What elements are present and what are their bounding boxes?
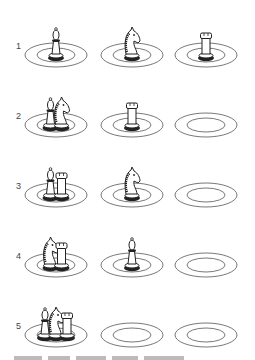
plate-1 — [22, 288, 90, 354]
plate-3 — [172, 218, 240, 284]
step-label: 3 — [16, 181, 21, 191]
plate-3 — [172, 78, 240, 144]
rook-piece — [54, 173, 70, 201]
step-label: 5 — [16, 321, 21, 331]
plate-1 — [22, 8, 90, 74]
plate-2 — [98, 218, 166, 284]
plate-3 — [172, 8, 240, 74]
plate-1 — [22, 218, 90, 284]
rook-piece — [198, 33, 214, 61]
bishop-piece — [124, 238, 140, 272]
bishop-piece — [48, 28, 64, 62]
step-label: 2 — [16, 111, 21, 121]
step-row-2: 2 — [0, 78, 255, 148]
knight-piece — [124, 167, 140, 201]
cut-off-caption — [14, 353, 244, 360]
rook-piece — [54, 243, 70, 271]
plate-3 — [172, 148, 240, 214]
plate-1 — [22, 78, 90, 144]
rook-piece — [59, 313, 75, 341]
step-row-3: 3 — [0, 148, 255, 218]
rook-piece — [124, 103, 140, 131]
plate-1 — [22, 148, 90, 214]
plate-2 — [98, 288, 166, 354]
knight-piece — [124, 27, 140, 61]
step-label: 1 — [16, 41, 21, 51]
step-label: 4 — [16, 251, 21, 261]
step-row-1: 1 — [0, 8, 255, 78]
plate-2 — [98, 8, 166, 74]
step-row-4: 4 — [0, 218, 255, 288]
step-row-5: 5 — [0, 288, 255, 358]
plate-3 — [172, 288, 240, 354]
plate-2 — [98, 78, 166, 144]
plate-2 — [98, 148, 166, 214]
